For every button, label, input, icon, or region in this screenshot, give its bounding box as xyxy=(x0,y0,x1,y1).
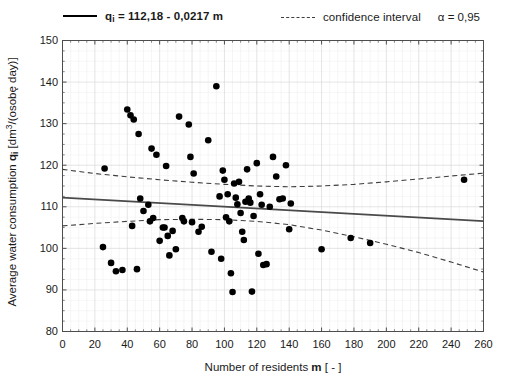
scatter-point xyxy=(237,210,244,217)
scatter-point xyxy=(150,215,157,222)
scatter-point xyxy=(169,228,176,235)
scatter-point xyxy=(226,218,233,225)
scatter-point xyxy=(257,191,264,198)
scatter-point xyxy=(232,194,239,201)
scatter-point xyxy=(318,246,325,253)
scatter-point xyxy=(176,113,183,120)
scatter-point xyxy=(189,219,196,226)
scatter-point xyxy=(347,235,354,242)
scatter-point xyxy=(145,201,152,208)
scatter-point xyxy=(161,224,168,231)
scatter-point xyxy=(113,268,120,275)
scatter-point xyxy=(130,116,137,123)
scatter-point xyxy=(124,106,131,113)
scatter-point xyxy=(254,160,261,167)
scatter-point xyxy=(258,201,265,208)
scatter-point xyxy=(236,179,243,186)
scatter-points-group xyxy=(100,83,468,295)
scatter-point xyxy=(100,244,107,251)
scatter-point xyxy=(129,223,136,230)
minor-gridlines xyxy=(63,41,484,332)
scatter-point xyxy=(134,266,141,273)
scatter-point xyxy=(286,226,293,233)
scatter-point xyxy=(208,248,215,255)
plot-area xyxy=(0,0,507,392)
scatter-point xyxy=(228,270,235,277)
scatter-point xyxy=(137,195,144,202)
scatter-point xyxy=(108,260,115,267)
scatter-point xyxy=(216,193,223,200)
scatter-point xyxy=(198,223,205,230)
scatter-point xyxy=(270,154,277,161)
scatter-point xyxy=(163,163,170,170)
scatter-point xyxy=(140,208,147,215)
scatter-point xyxy=(173,246,180,253)
scatter-point xyxy=(187,154,194,161)
scatter-point xyxy=(190,170,197,177)
scatter-point xyxy=(205,137,212,144)
scatter-point xyxy=(135,131,142,138)
scatter-point xyxy=(153,152,160,159)
scatter-point xyxy=(263,261,270,268)
scatter-point xyxy=(186,121,193,128)
scatter-point xyxy=(166,252,173,259)
scatter-point xyxy=(220,167,227,174)
scatter-point xyxy=(224,191,231,198)
scatter-point xyxy=(119,267,126,274)
scatter-point xyxy=(241,237,248,244)
scatter-point xyxy=(156,238,163,245)
scatter-point xyxy=(234,201,241,208)
scatter-point xyxy=(367,240,374,247)
scatter-point xyxy=(250,213,257,220)
scatter-chart-figure: qi = 112,18 - 0,0217 m confidence interv… xyxy=(0,0,507,392)
scatter-point xyxy=(244,166,251,173)
scatter-point xyxy=(255,250,262,257)
scatter-point xyxy=(247,199,254,206)
scatter-point xyxy=(249,288,256,295)
scatter-point xyxy=(229,289,236,296)
scatter-point xyxy=(213,83,220,90)
scatter-point xyxy=(273,173,280,180)
scatter-point xyxy=(164,233,171,240)
scatter-point xyxy=(461,176,468,183)
scatter-point xyxy=(101,165,108,172)
scatter-point xyxy=(148,145,155,152)
scatter-point xyxy=(288,200,295,207)
scatter-point xyxy=(283,162,290,169)
scatter-point xyxy=(279,195,286,202)
scatter-point xyxy=(218,255,225,262)
scatter-point xyxy=(239,228,246,235)
scatter-point xyxy=(221,176,228,183)
scatter-point xyxy=(266,203,273,210)
scatter-point xyxy=(181,218,188,225)
